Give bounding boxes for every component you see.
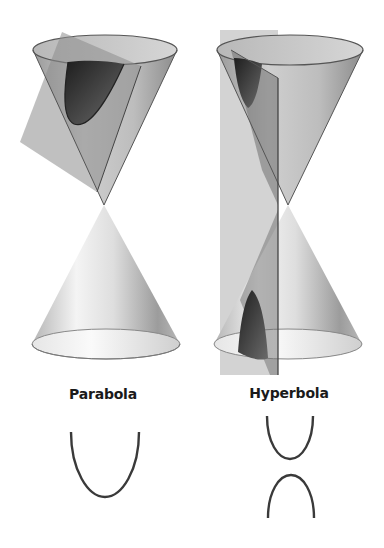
parabola-curve bbox=[71, 432, 139, 497]
hyperbola-curve-upper-branch bbox=[267, 416, 313, 459]
hyperbola-cone-figure bbox=[214, 30, 363, 375]
hyperbola-curve-lower-branch bbox=[268, 475, 314, 518]
parabola-cone-figure bbox=[20, 32, 180, 359]
lower-nappe-base bbox=[214, 329, 362, 359]
hyperbola-label: Hyperbola bbox=[236, 385, 342, 401]
conic-sections-diagram bbox=[0, 0, 384, 548]
parabola-label: Parabola bbox=[53, 386, 153, 402]
